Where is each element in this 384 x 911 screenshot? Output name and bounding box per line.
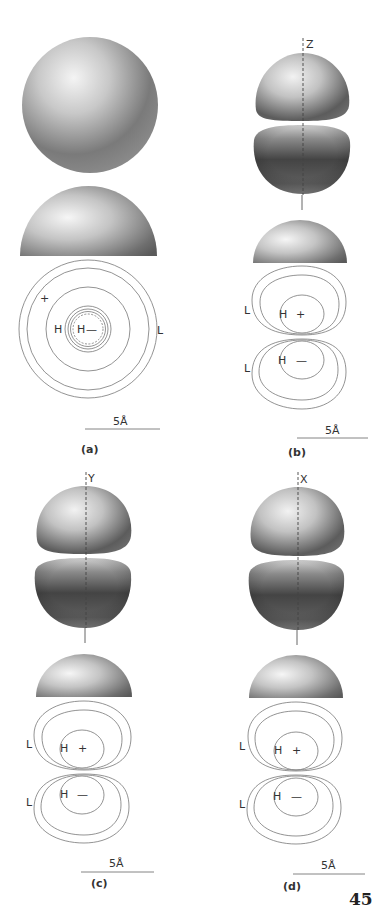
- panel-b: Z L H + L H — 5Å (b): [244, 38, 368, 459]
- plus-label: +: [296, 308, 305, 321]
- caption-b: (b): [288, 446, 306, 459]
- h-outer-label: H: [54, 323, 62, 336]
- h-inner-label: H: [77, 323, 85, 336]
- l-bottom-label: L: [244, 362, 251, 375]
- caption-c: (c): [91, 877, 108, 890]
- px-hemisphere: [249, 655, 343, 698]
- s-orbital-sphere: [22, 37, 158, 173]
- h-top-label: H: [60, 742, 68, 755]
- h-top-label: H: [274, 744, 282, 757]
- minus-label: —: [77, 788, 88, 801]
- panel-c: Y L H + L H — 5Å (c): [26, 472, 154, 890]
- plus-label: +: [292, 744, 301, 757]
- h-bottom-label: H: [273, 790, 281, 803]
- contour-map-d: [247, 702, 342, 844]
- caption-d: (d): [283, 880, 301, 893]
- l-top-label: L: [244, 304, 251, 317]
- panel-d: X L H + L H — 5Å (d): [239, 472, 365, 893]
- px-lobe-positive: [251, 487, 345, 556]
- scale-label-a: 5Å: [113, 415, 128, 428]
- scale-label-b: 5Å: [325, 424, 340, 437]
- l-bottom-label: L: [26, 796, 33, 809]
- scale-label-c: 5Å: [109, 857, 124, 870]
- axis-label-z: Z: [306, 38, 314, 51]
- minus-label: —: [291, 790, 302, 803]
- panel-a: + H H — L 5Å (a): [19, 37, 164, 456]
- l-bottom-label: L: [239, 798, 246, 811]
- h-bottom-label: H: [278, 354, 286, 367]
- py-hemisphere: [36, 654, 132, 697]
- py-lobe-positive: [37, 486, 132, 554]
- minus-label: —: [296, 354, 307, 367]
- axis-label-x: X: [300, 473, 308, 486]
- l-top-label: L: [239, 740, 246, 753]
- axis-label-y: Y: [87, 472, 95, 485]
- caption-a: (a): [81, 443, 98, 456]
- contour-map-b: [252, 266, 346, 409]
- plus-label: +: [40, 292, 49, 305]
- pz-hemisphere: [253, 220, 347, 263]
- s-orbital-hemisphere: [20, 186, 157, 256]
- plus-label: +: [78, 742, 87, 755]
- pz-lobe-positive: [256, 53, 350, 121]
- scale-label-d: 5Å: [321, 859, 336, 872]
- contour-map-c: [34, 701, 131, 843]
- h-bottom-label: H: [60, 788, 68, 801]
- page-number: 45: [349, 889, 373, 909]
- minus-label: —: [86, 323, 97, 336]
- h-top-label: H: [279, 308, 287, 321]
- orbital-figure: + H H — L 5Å (a) Z L H + L H — 5Å: [0, 0, 384, 911]
- l-label: L: [157, 324, 164, 337]
- l-top-label: L: [26, 738, 33, 751]
